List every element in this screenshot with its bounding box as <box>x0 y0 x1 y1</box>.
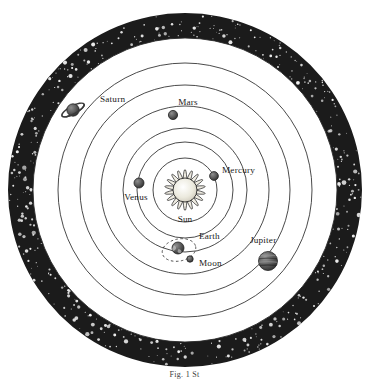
venus-body <box>134 178 144 188</box>
moon-label: Moon <box>199 258 222 268</box>
mercury-body <box>210 172 219 181</box>
solar-system-diagram: Sun MercuryVenusEarthMoonMarsJupiterSatu… <box>0 0 369 381</box>
figure-caption: Fig. 1 St <box>0 369 369 381</box>
saturn-label: Saturn <box>100 94 125 104</box>
venus-label: Venus <box>124 192 148 202</box>
mars-body <box>168 110 177 119</box>
sun-core <box>173 178 197 202</box>
solar-system-figure: Sun MercuryVenusEarthMoonMarsJupiterSatu… <box>0 0 369 381</box>
jupiter-body <box>259 252 278 271</box>
mars-label: Mars <box>178 97 198 107</box>
jupiter-label: Jupiter <box>250 235 276 245</box>
sun-label: Sun <box>178 214 193 224</box>
earth-label: Earth <box>199 231 220 241</box>
mercury-label: Mercury <box>222 165 255 175</box>
moon-body <box>187 256 193 262</box>
